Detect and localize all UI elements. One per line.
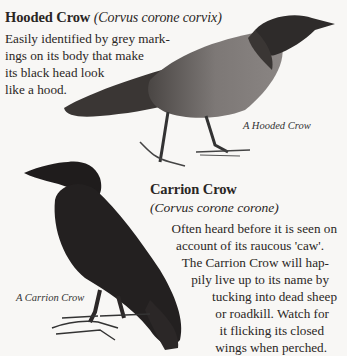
hooded-crow-scientific-name: (Corvus corone corvix) <box>94 10 222 25</box>
hooded-crow-heading: Hooded Crow (Corvus corone corvix) <box>5 9 222 26</box>
description-line: ings on its body that make <box>5 47 170 64</box>
description-line: it flicking its closed <box>171 322 337 339</box>
description-line: its black head look <box>5 64 170 81</box>
description-line: pily live up to its name by <box>171 271 337 288</box>
hooded-crow-description: Easily identified by grey mark- ings on … <box>5 30 170 98</box>
carrion-crow-scientific-name: (Corvus corone corone) <box>150 200 279 216</box>
description-line: wings when perched. <box>171 339 337 356</box>
description-line: or roadkill. Watch for <box>171 305 337 322</box>
description-line: like a hood. <box>5 81 170 98</box>
carrion-crow-name: Carrion Crow <box>150 181 237 198</box>
hooded-crow-name: Hooded Crow <box>5 9 90 25</box>
description-line: Easily identified by grey mark- <box>5 30 170 47</box>
description-line: The Carrion Crow will hap- <box>171 254 337 271</box>
description-line: tucking into dead sheep <box>171 288 337 305</box>
description-line: account of its raucous 'caw'. <box>171 237 337 254</box>
carrion-crow-description: Often heard before it is seen on account… <box>171 220 337 356</box>
description-line: Often heard before it is seen on <box>171 220 337 237</box>
carrion-crow-caption: A Carrion Crow <box>16 292 84 303</box>
hooded-crow-caption: A Hooded Crow <box>243 120 311 131</box>
